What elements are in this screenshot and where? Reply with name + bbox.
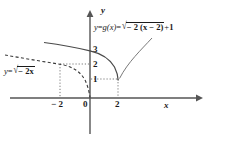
transformed-eq-radical: √− 2 (x − 2) (121, 22, 164, 32)
y-axis (87, 10, 94, 134)
parent-eq-radical: √− 2x (13, 66, 35, 76)
y-axis-label: y (101, 6, 105, 15)
transformed-curve (44, 43, 118, 81)
x-tick-2: 2 (115, 100, 120, 109)
leader-line (120, 38, 153, 79)
sqrt-icon: √ (122, 21, 127, 32)
x-tick-0: 0 (83, 100, 88, 109)
transformed-eq-constant: 1 (169, 22, 173, 32)
transformed-equation-label: y=g(x)=√− 2 (x − 2)+1 (94, 22, 173, 32)
parent-equation-label: y=√− 2x (4, 66, 35, 76)
x-axis-label: x (164, 101, 169, 110)
y-tick-2: 2 (93, 60, 98, 69)
sqrt-icon: √ (14, 65, 19, 76)
graph-figure: y x − 2 0 2 1 2 3 y=g(x)=√− 2 (x − 2)+1 … (0, 0, 225, 141)
transformed-eq-radicand: − 2 (x − 2) (126, 22, 165, 32)
y-tick-1: 1 (93, 75, 98, 84)
parent-curve (5, 55, 90, 98)
x-tick-minus-2: − 2 (51, 100, 63, 109)
y-tick-3: 3 (93, 45, 98, 54)
x-axis (10, 95, 203, 102)
parent-eq-radicand: − 2x (17, 66, 34, 76)
transformed-eq-argument: (x) (107, 22, 116, 32)
